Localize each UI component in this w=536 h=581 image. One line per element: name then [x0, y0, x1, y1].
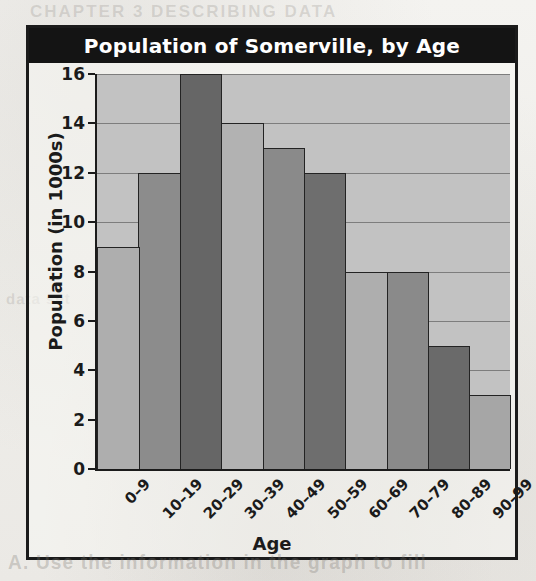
y-axis-label: Population (in 1000s) — [45, 112, 66, 372]
chart-figure: Population of Somerville, by Age Populat… — [26, 25, 518, 560]
bar[interactable] — [386, 272, 429, 470]
x-tick-label: 80–89 — [447, 475, 495, 523]
y-tick-mark — [88, 468, 95, 470]
x-tick-label: 50–59 — [324, 475, 372, 523]
x-tick-label: 0–9 — [121, 475, 154, 508]
chart-body: Population (in 1000s) 0246810121416 0–91… — [29, 63, 515, 557]
bar[interactable] — [221, 123, 264, 469]
bar[interactable] — [180, 74, 223, 469]
y-tick-mark — [88, 221, 95, 223]
page-title: Population of Somerville, by Age — [84, 34, 460, 58]
plot-area — [95, 74, 510, 471]
x-tick-label: 40–49 — [282, 475, 330, 523]
ghost-text-top: CHAPTER 3 DESCRIBING DATA — [30, 2, 530, 22]
y-tick-mark — [88, 271, 95, 273]
y-tick-label: 8 — [73, 262, 85, 282]
x-tick-label: 90–99 — [489, 475, 536, 523]
y-tick-mark — [88, 73, 95, 75]
x-tick-label: 70–79 — [406, 475, 454, 523]
y-tick-label: 6 — [73, 311, 85, 331]
y-tick-label: 2 — [73, 410, 85, 430]
bar[interactable] — [345, 272, 388, 470]
bar[interactable] — [303, 173, 346, 469]
y-tick-label: 4 — [73, 360, 85, 380]
bar[interactable] — [427, 346, 470, 469]
bar-series — [97, 74, 510, 469]
bar[interactable] — [97, 247, 140, 469]
y-tick-label: 16 — [61, 64, 85, 84]
x-axis-label: Age — [29, 533, 515, 554]
y-tick-mark — [88, 369, 95, 371]
y-tick-mark — [88, 122, 95, 124]
x-tick-label: 60–69 — [365, 475, 413, 523]
chart-title-banner: Population of Somerville, by Age — [29, 28, 515, 63]
y-tick-mark — [88, 320, 95, 322]
x-tick-label: 10–19 — [158, 475, 206, 523]
y-tick-mark — [88, 172, 95, 174]
x-tick-label: 30–39 — [241, 475, 289, 523]
bar[interactable] — [469, 395, 512, 469]
bar[interactable] — [262, 148, 305, 469]
bar[interactable] — [138, 173, 181, 469]
x-tick-label: 20–29 — [200, 475, 248, 523]
y-tick-label: 0 — [73, 459, 85, 479]
x-axis-ticks: 0–910–1920–2930–3940–4950–5960–6970–7980… — [95, 471, 508, 531]
y-tick-mark — [88, 419, 95, 421]
